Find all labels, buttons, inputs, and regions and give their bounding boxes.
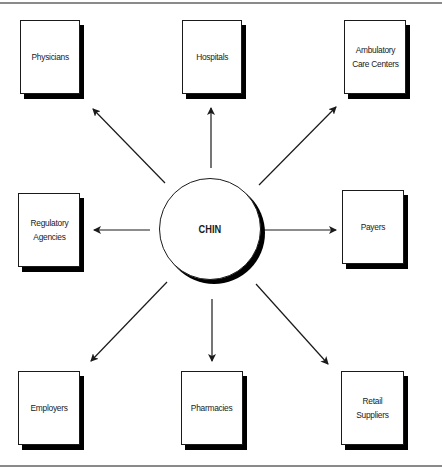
node-regulatory-agencies: Regulatory Agencies (18, 193, 80, 267)
node-label: Employers (30, 401, 67, 415)
node-label: Hospitals (196, 50, 228, 64)
node-label: Ambulatory Care Centers (352, 43, 399, 71)
node-physicians: Physicians (20, 20, 80, 94)
hub-chin: CHIN (159, 178, 261, 280)
hub-label: CHIN (199, 223, 222, 235)
node-label: Payers (361, 220, 385, 234)
arrow-to-physicians (93, 109, 165, 183)
node-payers: Payers (342, 190, 404, 264)
node-pharmacies: Pharmacies (181, 371, 243, 445)
node-label: Regulatory Agencies (30, 216, 68, 244)
arrow-to-employers (91, 282, 167, 361)
arrow-to-ambulatory (259, 107, 336, 185)
node-label: Pharmacies (191, 401, 233, 415)
node-ambulatory-care-centers: Ambulatory Care Centers (344, 20, 406, 94)
node-label: Retail Suppliers (356, 394, 388, 422)
node-hospitals: Hospitals (182, 20, 242, 94)
node-employers: Employers (18, 371, 80, 445)
node-label: Physicians (31, 50, 68, 64)
arrow-to-retail (256, 284, 328, 364)
node-retail-suppliers: Retail Suppliers (341, 371, 404, 445)
